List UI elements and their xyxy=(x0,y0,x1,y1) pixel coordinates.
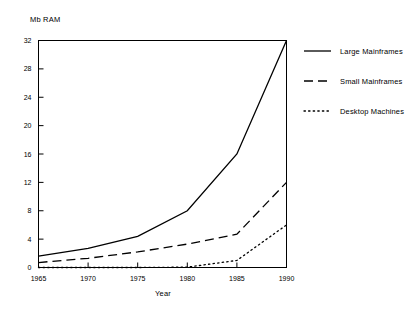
x-tick-label: 1990 xyxy=(279,275,295,282)
y-tick-label: 8 xyxy=(28,207,32,214)
y-tick-label: 4 xyxy=(28,236,32,243)
x-tick-label: 1970 xyxy=(80,275,96,282)
series-group xyxy=(39,41,287,268)
x-tick-label: 1975 xyxy=(130,275,146,282)
chart-container: Mb RAM Year 048121620242832 196519701975… xyxy=(0,0,407,312)
y-tick-label: 20 xyxy=(24,122,32,129)
legend-label: Small Mainframes xyxy=(340,77,403,86)
y-tick-label: 24 xyxy=(24,94,32,101)
plot-frame xyxy=(39,40,288,268)
y-tick-label: 12 xyxy=(24,179,32,186)
legend-label: Large Mainframes xyxy=(340,47,403,56)
y-tick-label: 28 xyxy=(24,65,32,72)
x-axis-title: Year xyxy=(155,289,171,298)
y-axis-ticks: 048121620242832 xyxy=(24,37,44,271)
series-line xyxy=(39,225,287,268)
y-tick-label: 32 xyxy=(24,37,32,44)
x-tick-label: 1985 xyxy=(229,275,245,282)
y-tick-label: 0 xyxy=(28,264,32,271)
x-tick-label: 1965 xyxy=(31,275,47,282)
x-axis-ticks: 196519701975198019851990 xyxy=(31,263,295,282)
line-chart: Mb RAM Year 048121620242832 196519701975… xyxy=(0,0,407,312)
series-line xyxy=(39,41,287,257)
chart-legend: Large MainframesSmall MainframesDesktop … xyxy=(304,47,404,116)
legend-label: Desktop Machines xyxy=(340,107,404,116)
y-axis-title: Mb RAM xyxy=(30,15,60,24)
y-tick-label: 16 xyxy=(24,151,32,158)
x-tick-label: 1980 xyxy=(180,275,196,282)
